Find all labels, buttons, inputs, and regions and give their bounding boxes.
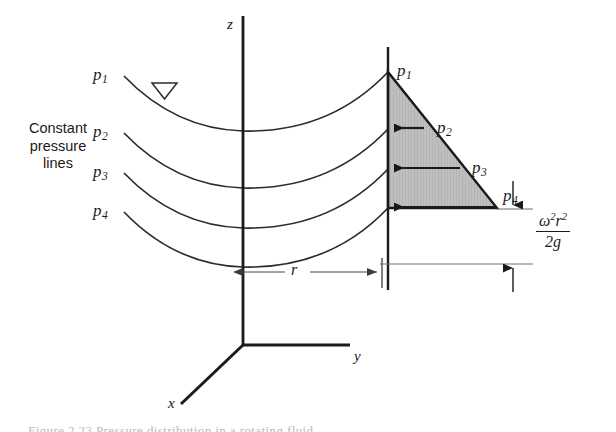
figure-caption: Figure 2.23 Pressure distribution in a r… — [28, 424, 317, 432]
pressure-label-p4: p4 — [503, 187, 518, 207]
constant-pressure-curve-p3 — [124, 169, 388, 228]
y-axis-label: y — [354, 349, 361, 364]
pressure-distribution-figure: Constant pressure lines p1 p2 p3 p4 p1 p… — [0, 0, 616, 432]
pressure-triangle-shape — [388, 72, 497, 208]
curve-label-p4: p4 — [93, 202, 108, 222]
curve-label-p4-sub: 4 — [102, 209, 108, 221]
radius-dimension — [243, 258, 382, 288]
pressure-label-p3: p3 — [472, 159, 487, 179]
pressure-label-p1-sub: 1 — [406, 69, 412, 81]
curve-label-p1-sub: 1 — [102, 73, 108, 85]
free-surface-triangle-icon — [152, 83, 177, 99]
height-formula: ω2r2 2g — [536, 212, 570, 250]
curve-label-p3-sub: 3 — [102, 170, 108, 182]
curve-label-p3: p3 — [93, 163, 108, 183]
curve-label-p2: p2 — [93, 123, 108, 143]
height-formula-numerator: ω2r2 — [536, 212, 570, 230]
fraction-bar — [536, 231, 570, 232]
height-formula-denominator: 2g — [536, 233, 570, 250]
curve-label-p2-sub: 2 — [102, 130, 108, 142]
pressure-triangle — [388, 72, 497, 208]
x-axis-label: x — [168, 396, 175, 411]
pressure-label-p1: p1 — [397, 62, 412, 82]
constant-pressure-curve-p2 — [124, 129, 388, 188]
constant-pressure-curve-p1 — [124, 72, 388, 131]
pressure-label-p4-sub: 4 — [512, 194, 518, 206]
z-axis-label: z — [227, 17, 233, 32]
pressure-label-p3-sub: 3 — [481, 166, 487, 178]
pressure-label-p2-sub: 2 — [446, 126, 452, 138]
constant-pressure-curve-p4 — [124, 208, 388, 267]
curve-label-p1: p1 — [93, 66, 108, 86]
constant-pressure-curves — [124, 72, 388, 267]
radius-exponent: 2 — [562, 211, 567, 222]
radius-label: r — [291, 262, 297, 278]
pressure-label-p2: p2 — [437, 119, 452, 139]
x-axis — [181, 345, 243, 404]
omega-symbol: ω — [539, 212, 550, 229]
